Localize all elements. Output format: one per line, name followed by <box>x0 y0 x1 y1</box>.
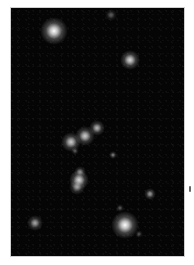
star <box>40 17 68 45</box>
star <box>69 179 85 195</box>
star <box>135 230 143 238</box>
star <box>120 50 140 70</box>
star <box>105 9 117 21</box>
star <box>144 188 156 200</box>
star <box>109 151 117 159</box>
star <box>27 215 43 231</box>
edge-mark <box>189 186 191 192</box>
star-field-image <box>10 7 185 257</box>
star <box>71 147 79 155</box>
